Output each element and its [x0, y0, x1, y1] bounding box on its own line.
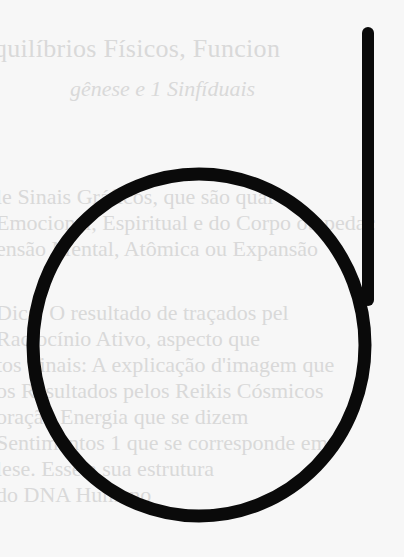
d-sign-icon — [0, 0, 404, 557]
sign-circle — [33, 174, 365, 516]
scanned-page: quilíbrios Físicos, Funcion gênese e 1 S… — [0, 0, 404, 557]
